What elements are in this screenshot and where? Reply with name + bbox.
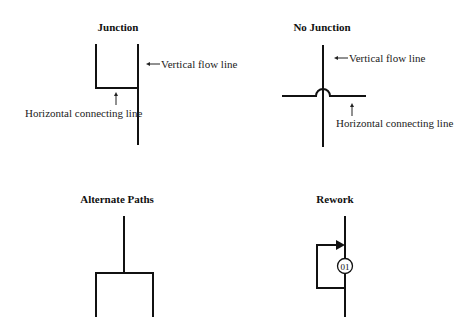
junction-horizontal-label: Horizontal connecting line: [25, 107, 142, 119]
rework-title: Rework: [316, 193, 354, 205]
rework-panel: Rework 01: [316, 193, 354, 316]
no-junction-horizontal-label: Horizontal connecting line: [336, 117, 453, 129]
no-junction-panel: No Junction Vertical flow line Horizonta…: [283, 21, 453, 146]
flowchart-symbols-diagram: Junction Vertical flow line Horizontal c…: [0, 0, 467, 326]
no-junction-horizontal-arrow-icon: [350, 103, 354, 116]
alternate-paths-title: Alternate Paths: [80, 193, 154, 205]
rework-node-label: 01: [341, 262, 350, 272]
junction-title: Junction: [98, 21, 139, 33]
no-junction-title: No Junction: [293, 21, 350, 33]
junction-vertical-arrow-icon: [146, 62, 160, 66]
no-junction-vertical-arrow-icon: [334, 56, 348, 60]
alternate-paths-split-lines: [96, 273, 153, 316]
junction-horizontal-arrow-icon: [114, 92, 118, 105]
no-junction-vertical-label: Vertical flow line: [349, 52, 425, 64]
rework-arrow-icon: [336, 240, 345, 250]
junction-vertical-label: Vertical flow line: [161, 58, 237, 70]
junction-branch-line: [96, 45, 138, 88]
junction-panel: Junction Vertical flow line Horizontal c…: [25, 21, 237, 144]
alternate-paths-panel: Alternate Paths: [80, 193, 154, 316]
